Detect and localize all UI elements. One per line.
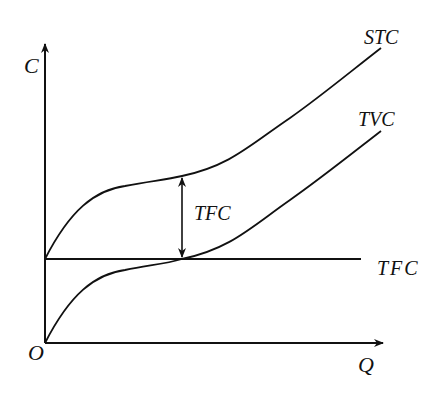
y-axis-label: C: [24, 53, 39, 78]
origin-label: O: [28, 340, 44, 365]
cost-curves-diagram: C O Q STC TVC TFC TFC: [0, 0, 440, 398]
tvc-curve: [45, 131, 381, 343]
tvc-label: TVC: [358, 108, 395, 130]
tfc-gap-label: TFC: [194, 202, 231, 224]
stc-label: STC: [364, 26, 399, 48]
tfc-line-label: TFC: [377, 257, 420, 279]
diagram-canvas: C O Q STC TVC TFC TFC: [0, 0, 440, 398]
stc-curve: [45, 48, 381, 259]
x-axis-label: Q: [358, 352, 374, 377]
